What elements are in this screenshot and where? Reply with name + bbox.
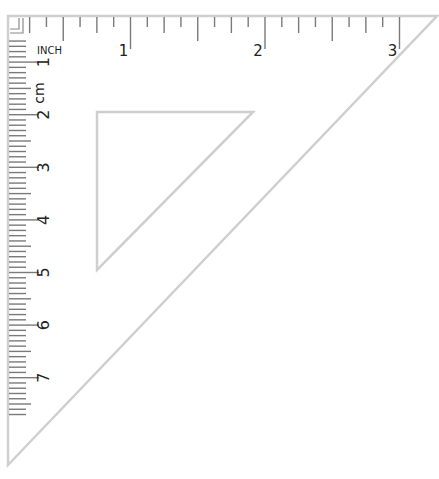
cm-label: 2 (34, 110, 53, 120)
inch-label: 3 (388, 42, 398, 60)
cm-label: 5 (34, 267, 53, 277)
cm-label: 6 (34, 320, 53, 330)
inch-unit-label: INCH (37, 45, 62, 56)
inch-label: 2 (253, 42, 263, 60)
cm-label: 3 (34, 162, 53, 172)
ruler-outline (8, 16, 437, 465)
cm-label: 7 (34, 373, 53, 383)
set-square-ruler: 123 1234567 INCH cm (0, 0, 439, 479)
inch-label: 1 (119, 42, 129, 60)
cm-unit-label: cm (31, 82, 47, 103)
cm-label: 1 (34, 57, 53, 67)
cm-label: 4 (34, 215, 53, 225)
